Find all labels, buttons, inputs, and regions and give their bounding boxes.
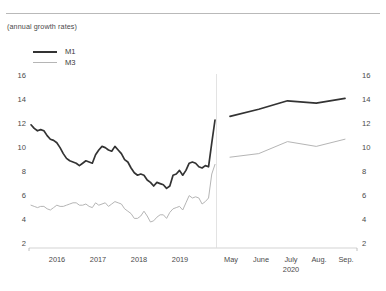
series-line-m3-left	[31, 164, 215, 222]
x-axis-ticks	[29, 248, 357, 251]
series-paths	[31, 98, 345, 222]
series-line-m1-right	[230, 98, 345, 116]
series-line-m3-right	[230, 139, 345, 157]
series-line-m1-left	[31, 120, 215, 188]
plot-canvas	[0, 0, 386, 291]
chart-figure: (annual growth rates) M1 M3 16 14 12 10 …	[0, 0, 386, 291]
axis-lines	[29, 74, 357, 248]
